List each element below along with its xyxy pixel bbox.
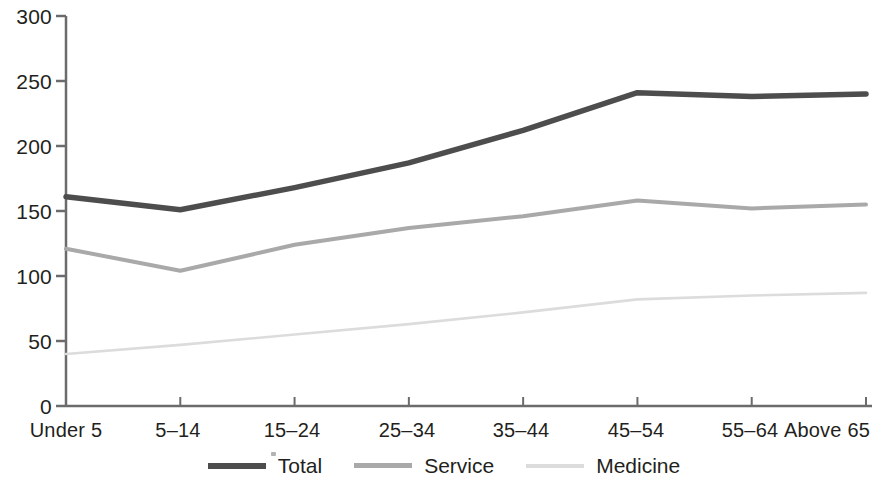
plot-area: [0, 0, 888, 487]
legend-line-icon-service: [354, 463, 412, 468]
legend-item-service: Service: [354, 455, 494, 476]
x-axis-tick-marks: [66, 397, 866, 406]
legend-item-total: Total: [208, 455, 322, 476]
legend-label-medicine: Medicine: [596, 455, 680, 476]
chart-legend: Total Service Medicine: [0, 455, 888, 476]
series-line-total: [66, 93, 866, 210]
data-series-layer: [66, 93, 866, 354]
legend-label-total: Total: [278, 455, 322, 476]
legend-item-medicine: Medicine: [526, 455, 680, 476]
y-axis-tick-marks: [56, 16, 66, 406]
legend-line-icon-total: [208, 463, 266, 469]
legend-label-service: Service: [424, 455, 494, 476]
line-chart: 300 250 200 150 100 50 0 Under 5 5–14 15…: [0, 0, 888, 487]
legend-line-icon-medicine: [526, 464, 584, 468]
series-line-medicine: [66, 293, 866, 354]
